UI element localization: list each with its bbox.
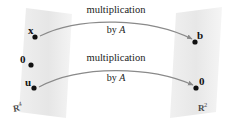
point-label-zero-left: 0	[20, 54, 26, 65]
upper-arrow-label-line2: by A	[76, 25, 156, 36]
diagram-canvas: x 0 u b 0 multiplication by A multiplica…	[0, 0, 228, 126]
left-vector-space-plane	[19, 8, 72, 118]
upper-arrow-label-matrix: A	[119, 24, 125, 35]
lower-arrow-label-matrix: A	[119, 72, 125, 83]
lower-arrow-label-line1: multiplication	[76, 52, 156, 63]
right-vector-space-plane	[170, 7, 222, 118]
right-space-exponent: 2	[204, 101, 207, 108]
lower-arrow-label-by: by	[107, 72, 120, 83]
point-label-u: u	[25, 77, 31, 88]
point-label-b: b	[197, 30, 203, 41]
point-dot-zero-left	[28, 62, 33, 67]
upper-arrow-label-by: by	[107, 24, 120, 35]
point-label-zero-right: 0	[199, 76, 205, 87]
point-dot-zero-right	[193, 85, 198, 90]
upper-arrow-label-line1: multiplication	[76, 4, 156, 15]
point-label-x: x	[28, 25, 34, 36]
point-dot-u	[31, 85, 36, 90]
lower-arrow-label-line2: by A	[76, 73, 156, 84]
right-space-label: R2	[198, 104, 207, 113]
